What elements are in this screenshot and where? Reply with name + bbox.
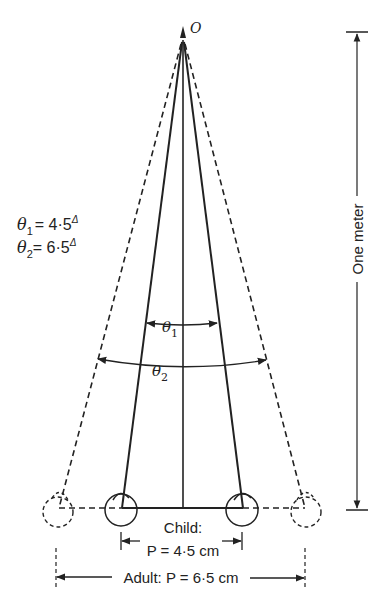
theta1-arc	[147, 323, 217, 325]
theta2-arc	[98, 359, 266, 367]
convergence-diagram: O θ1 θ2 θ1= 4·5Δ θ2= 6·5Δ	[0, 0, 388, 605]
apex-label: O	[190, 20, 202, 36]
adult-measure: Adult: P = 6·5 cm	[123, 569, 238, 586]
child-left-eye-icon	[105, 493, 137, 526]
theta1-arc-label: θ1	[162, 318, 178, 340]
child-right-sightline	[184, 42, 243, 508]
adult-right-eye-icon	[291, 492, 321, 527]
child-measure: P = 4·5 cm	[147, 542, 220, 559]
adult-left-eye-icon	[43, 492, 73, 527]
child-title: Child:	[164, 519, 202, 536]
apex-point	[180, 26, 186, 38]
adult-left-sightline	[59, 44, 181, 508]
theta2-arc-label: θ2	[152, 362, 168, 384]
child-left-sightline	[122, 42, 182, 508]
adult-right-sightline	[185, 44, 305, 508]
theta1-equation: θ1= 4·5Δ	[17, 214, 79, 237]
meter-label: One meter	[349, 204, 366, 275]
theta2-equation: θ2= 6·5Δ	[17, 237, 77, 260]
